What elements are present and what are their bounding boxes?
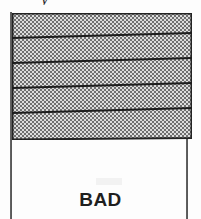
flag-banner [12, 13, 192, 140]
flag-fill-region [13, 14, 192, 140]
cropped-glyph-text: y [41, 0, 53, 5]
scan-speckle [96, 178, 122, 185]
flag-banner-svg [12, 13, 192, 140]
figure-caption: BAD [0, 190, 201, 210]
figure-bad-flag: y BAD [0, 0, 201, 219]
cropped-glyph-fragment: y [41, 0, 53, 5]
